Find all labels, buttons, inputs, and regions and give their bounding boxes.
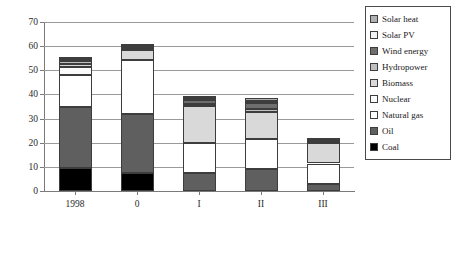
legend-item-hydropower: Hydropower [370,59,447,75]
y-tick-label: 0 [33,186,38,196]
bar-segment-solar-heat [183,96,216,98]
legend-label: Hydropower [382,63,428,72]
bar-segment-solar-pv [245,101,278,103]
y-tick-mark [40,46,44,47]
y-tick-label: 60 [29,41,39,51]
legend-label: Solar PV [382,31,415,40]
y-tick-label: 10 [29,162,39,172]
x-tick-mark [323,191,324,195]
y-tick-mark [40,94,44,95]
x-tick-mark [137,191,138,195]
legend-swatch-icon [370,47,378,55]
y-tick-label: 70 [29,17,39,27]
legend-label: Biomass [382,79,413,88]
bar-segment-solar-heat [59,57,92,59]
legend-item-oil: Oil [370,123,447,139]
bar-III [307,139,340,191]
bar-segment-coal [59,168,92,191]
y-tick-label: 30 [29,114,39,124]
legend-item-coal: Coal [370,139,447,155]
bar-segment-natural-gas [183,143,216,173]
bar-segment-hydropower [183,104,216,106]
bar-segment-biomass [245,112,278,140]
legend-swatch-icon [370,15,378,23]
legend-item-biomass: Biomass [370,75,447,91]
bar-segment-hydropower [59,61,92,64]
bar-segment-wind-energy [183,100,216,104]
legend-label: Solar heat [382,15,418,24]
bar-segment-biomass [59,64,92,68]
x-tick-label-II: II [258,199,264,209]
bar-segment-nuclear [59,67,92,74]
bar-segment-oil [121,114,154,173]
bar-segment-biomass [307,143,340,163]
bar-segment-oil [183,173,216,191]
y-tick-mark [40,22,44,23]
bar-I [183,96,216,191]
bar-segment-oil [307,184,340,191]
bar-segment-natural-gas [307,164,340,185]
legend-item-nuclear: Nuclear [370,91,447,107]
y-tick-label: 20 [29,138,39,148]
y-tick-mark [40,167,44,168]
legend-item-natural-gas: Natural gas [370,107,447,123]
bar-0 [121,45,154,191]
x-tick-mark [75,191,76,195]
legend-item-solar-pv: Solar PV [370,27,447,43]
legend-item-wind-energy: Wind energy [370,43,447,59]
bar-segment-biomass [183,106,216,144]
legend-label: Natural gas [382,111,423,120]
legend-item-solar-heat: Solar heat [370,11,447,27]
y-tick-mark [40,70,44,71]
bar-II [245,98,278,191]
legend-label: Coal [382,143,399,152]
bar-segment-hydropower [121,48,154,50]
gridline [44,22,354,23]
stacked-bar-chart: 010203040506070 19980IIIIII Solar heatSo… [0,0,456,267]
bar-1998 [59,61,92,191]
legend-swatch-icon [370,63,378,71]
legend-label: Wind energy [382,47,428,56]
y-tick-mark [40,119,44,120]
bar-segment-natural-gas [59,75,92,107]
bar-segment-oil [245,169,278,191]
y-tick-label: 50 [29,65,39,75]
y-tick-mark [40,191,44,192]
bar-segment-biomass [121,50,154,60]
bar-segment-natural-gas [121,60,154,114]
bar-segment-solar-pv [183,98,216,100]
bar-segment-solar-heat [307,138,340,140]
legend-swatch-icon [370,111,378,119]
legend-label: Nuclear [382,95,410,104]
x-tick-mark [261,191,262,195]
x-tick-label-1998: 1998 [66,199,85,209]
y-tick-label: 40 [29,89,39,99]
bar-segment-oil [59,107,92,169]
bar-segment-solar-heat [245,98,278,101]
legend-swatch-icon [370,143,378,151]
bar-segment-hydropower [245,109,278,111]
x-tick-label-III: III [318,199,328,209]
bar-segment-natural-gas [245,139,278,168]
bar-segment-solar-heat [121,44,154,46]
legend-label: Oil [382,127,394,136]
chart-legend: Solar heatSolar PVWind energyHydropowerB… [365,6,451,160]
gridline [44,46,354,47]
x-tick-mark [199,191,200,195]
x-tick-label-0: 0 [135,199,140,209]
legend-swatch-icon [370,95,378,103]
legend-swatch-icon [370,79,378,87]
y-tick-mark [40,143,44,144]
bar-segment-coal [121,173,154,191]
legend-swatch-icon [370,127,378,135]
legend-swatch-icon [370,31,378,39]
plot-area [44,22,354,191]
bar-segment-wind-energy [245,103,278,109]
x-tick-label-I: I [197,199,200,209]
